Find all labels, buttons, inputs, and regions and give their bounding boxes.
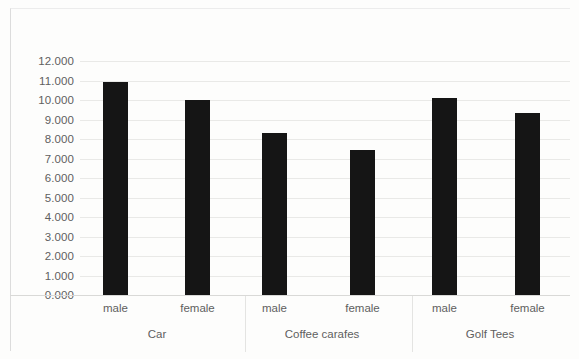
group-label: Car bbox=[148, 328, 167, 340]
series-label: male bbox=[262, 302, 287, 314]
series-label: female bbox=[180, 302, 215, 314]
group-separator bbox=[412, 296, 413, 352]
category-axis: malefemalemalefemalemalefemaleCarCoffee … bbox=[10, 295, 570, 351]
bar bbox=[103, 82, 128, 295]
group-label: Coffee carafes bbox=[285, 328, 360, 340]
series-label: female bbox=[510, 302, 545, 314]
group-label: Golf Tees bbox=[466, 328, 514, 340]
bar bbox=[262, 133, 287, 295]
bar bbox=[432, 98, 457, 295]
series-label: male bbox=[103, 302, 128, 314]
bar-chart: 12.00011.00010.0009.0008.0007.0006.0005.… bbox=[0, 0, 579, 359]
bar bbox=[185, 100, 210, 295]
series-label: female bbox=[345, 302, 380, 314]
bar bbox=[350, 150, 375, 295]
group-separator bbox=[245, 296, 246, 352]
series-label: male bbox=[432, 302, 457, 314]
bar bbox=[515, 113, 540, 295]
